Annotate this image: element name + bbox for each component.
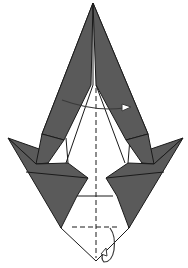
origami-diagram xyxy=(0,0,188,268)
